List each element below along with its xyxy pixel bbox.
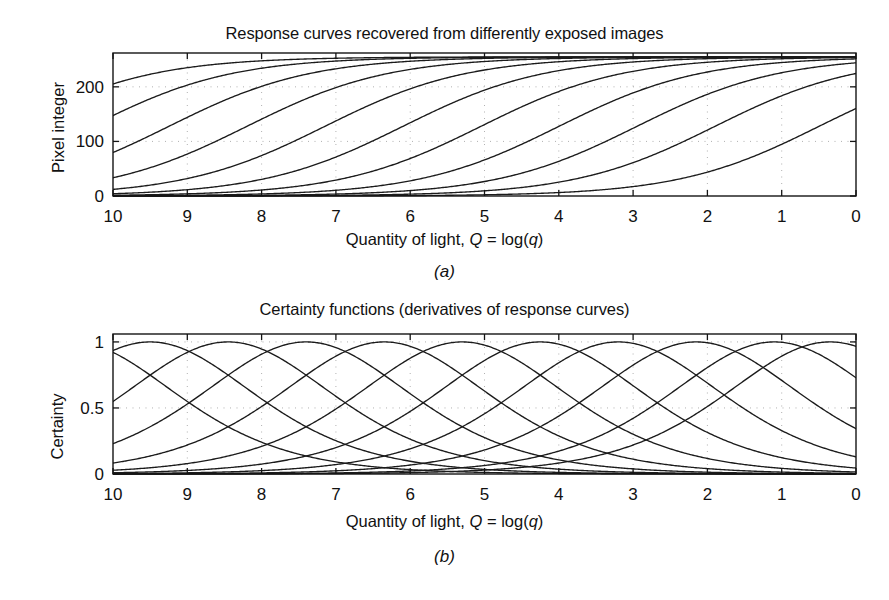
panel-b-caption: (b) — [0, 547, 889, 567]
y-tick-label: 1 — [95, 333, 104, 352]
panel-a-xlabel-mid: = log( — [482, 230, 528, 248]
figure-response-and-certainty: Response curves recovered from different… — [0, 0, 889, 600]
x-tick-label: 4 — [554, 485, 563, 504]
curve-certainty-6 — [113, 342, 856, 472]
axis-frame — [113, 334, 856, 474]
x-tick-label: 1 — [777, 485, 786, 504]
panel-a-xlabel-var-q: q — [529, 230, 538, 248]
x-tick-label: 7 — [331, 207, 340, 226]
x-tick-label: 9 — [183, 207, 192, 226]
panel-a-xlabel-prefix: Quantity of light, — [346, 230, 470, 248]
x-tick-label: 0 — [851, 207, 860, 226]
tick-labels: 10987654321000.51 — [80, 333, 860, 504]
x-tick-label: 10 — [104, 207, 123, 226]
y-tick-label: 200 — [76, 78, 104, 97]
gridlines — [113, 334, 856, 474]
curve-exposure-9 — [113, 63, 856, 196]
curve-exposure-7 — [113, 58, 856, 196]
x-tick-label: 0 — [851, 485, 860, 504]
x-tick-label: 6 — [405, 207, 414, 226]
panel-certainty-functions: Certainty functions (derivatives of resp… — [0, 285, 889, 600]
x-tick-label: 8 — [257, 207, 266, 226]
panel-a-x-axis-label: Quantity of light, Q = log(q) — [0, 230, 889, 249]
x-tick-label: 9 — [183, 485, 192, 504]
x-tick-label: 7 — [331, 485, 340, 504]
tickmarks — [113, 334, 856, 474]
y-tick-label: 100 — [76, 132, 104, 151]
x-tick-label: 6 — [405, 485, 414, 504]
curve-group — [113, 57, 856, 196]
panel-a-caption: (a) — [0, 262, 889, 282]
y-tick-label: 0.5 — [80, 399, 104, 418]
panel-b-xlabel-suffix: ) — [538, 512, 544, 530]
panel-b-xlabel-var-Q: Q — [469, 512, 482, 530]
y-tick-label: 0 — [95, 465, 104, 484]
panel-b-xlabel-prefix: Quantity of light, — [346, 512, 470, 530]
panel-a-xlabel-suffix: ) — [538, 230, 544, 248]
y-tick-label: 0 — [95, 187, 104, 206]
x-tick-label: 1 — [777, 207, 786, 226]
x-tick-label: 2 — [703, 485, 712, 504]
x-tick-label: 2 — [703, 207, 712, 226]
x-tick-label: 3 — [628, 207, 637, 226]
x-tick-label: 8 — [257, 485, 266, 504]
panel-response-curves: Response curves recovered from different… — [0, 0, 889, 295]
panel-b-xlabel-var-q: q — [529, 512, 538, 530]
panel-b-xlabel-mid: = log( — [482, 512, 528, 530]
curve-exposure-11 — [113, 109, 856, 196]
x-tick-label: 5 — [480, 485, 489, 504]
panel-a-xlabel-var-Q: Q — [469, 230, 482, 248]
x-tick-label: 4 — [554, 207, 563, 226]
x-tick-label: 5 — [480, 207, 489, 226]
curve-certainty-7 — [113, 342, 856, 473]
curve-exposure-10 — [113, 73, 856, 195]
panel-b-x-axis-label: Quantity of light, Q = log(q) — [0, 512, 889, 531]
curve-exposure-5 — [113, 57, 856, 189]
x-tick-label: 3 — [628, 485, 637, 504]
x-tick-label: 10 — [104, 485, 123, 504]
